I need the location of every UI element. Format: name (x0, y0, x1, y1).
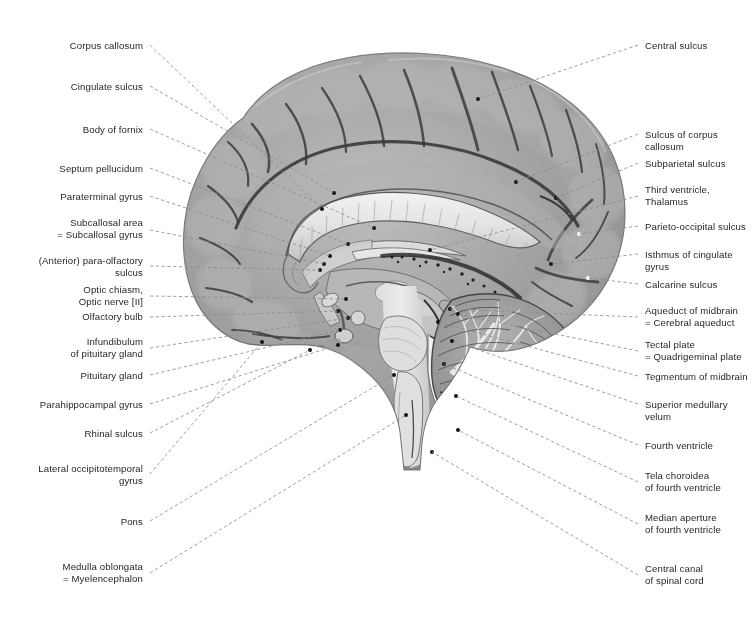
label-aqueduct-of-midbrain: Aqueduct of midbrain = Cerebral aqueduct (645, 305, 738, 329)
label-septum-pellucidum: Septum pellucidum (59, 163, 143, 175)
label-tectal-plate: Tectal plate = Quadrigeminal plate (645, 339, 742, 363)
label-olfactory-bulb: Olfactory bulb (82, 311, 143, 323)
label-calcarine-sulcus: Calcarine sulcus (645, 279, 717, 291)
label-paraterminal-gyrus: Paraterminal gyrus (60, 191, 143, 203)
label-central-canal: Central canal of spinal cord (645, 563, 704, 587)
label-central-sulcus: Central sulcus (645, 40, 707, 52)
label-corpus-callosum: Corpus callosum (70, 40, 143, 52)
label-isthmus-of-cingulate-gyrus: Isthmus of cingulate gyrus (645, 249, 752, 273)
label-tela-choroidea: Tela choroidea of fourth ventricle (645, 470, 721, 494)
label-lateral-occipitotemporal-gyrus: Lateral occipitotemporal gyrus (38, 463, 143, 487)
anatomy-figure: Corpus callosumCingulate sulcusBody of f… (0, 0, 752, 643)
label-parahippocampal-gyrus: Parahippocampal gyrus (40, 399, 143, 411)
label-tegmentum-of-midbrain: Tegmentum of midbrain (645, 371, 748, 383)
label-sulcus-of-corpus-callosum: Sulcus of corpus callosum (645, 129, 752, 153)
label-medulla-oblongata: Medulla oblongata = Myelencephalon (63, 561, 143, 585)
label-median-aperture: Median aperture of fourth ventricle (645, 512, 721, 536)
label-pons: Pons (121, 516, 143, 528)
label-subcallosal-area: Subcallosal area = Subcallosal gyrus (57, 217, 143, 241)
label-optic-chiasm-optic-nerve: Optic chiasm, Optic nerve [II] (79, 284, 143, 308)
label-infundibulum: Infundibulum of pituitary gland (70, 336, 143, 360)
label-third-ventricle-thalamus: Third ventricle, Thalamus (645, 184, 710, 208)
label-cingulate-sulcus: Cingulate sulcus (71, 81, 143, 93)
label-rhinal-sulcus: Rhinal sulcus (84, 428, 143, 440)
label-subparietal-sulcus: Subparietal sulcus (645, 158, 726, 170)
label-superior-medullary-velum: Superior medullary velum (645, 399, 752, 423)
label-body-of-fornix: Body of fornix (83, 124, 143, 136)
label-fourth-ventricle: Fourth ventricle (645, 440, 713, 452)
label-parieto-occipital-sulcus: Parieto-occipital sulcus (645, 221, 746, 233)
label-pituitary-gland: Pituitary gland (80, 370, 143, 382)
label-anterior-para-olfactory-sulcus: (Anterior) para-olfactory sulcus (39, 255, 143, 279)
